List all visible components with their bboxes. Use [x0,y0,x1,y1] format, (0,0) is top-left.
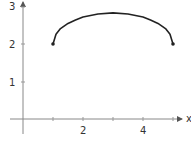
y-tick-label-1: 1 [9,77,15,88]
endpoint-dot [171,42,175,46]
curve-endpoints [51,42,175,46]
endpoint-dot [51,42,55,46]
y-tick-label-3: 3 [9,1,15,12]
x-axis-label: x [186,113,191,124]
x-tick-label-2: 2 [80,125,86,136]
y-tick-label-2: 2 [9,39,15,50]
curve-line [53,13,173,44]
chart: 2 4 1 2 3 x [0,0,191,150]
x-tick-label-4: 4 [140,125,146,136]
